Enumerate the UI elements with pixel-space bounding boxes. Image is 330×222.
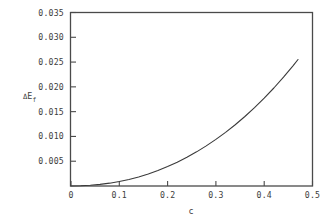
chart-canvas: 0.0050.0100.0150.0200.0250.0300.035 00.1… (0, 0, 330, 222)
y-tick-label: 0.035 (38, 8, 64, 18)
chart-figure: 0.0050.0100.0150.0200.0250.0300.035 00.1… (0, 0, 330, 222)
x-tick-label: 0 (68, 190, 73, 200)
x-tick-label: 0.2 (160, 190, 175, 200)
y-tick-label: 0.005 (38, 156, 64, 166)
y-tick-label: 0.030 (38, 32, 64, 42)
y-tick-label: 0.015 (38, 107, 64, 117)
y-axis-title-subscript: f (32, 96, 36, 103)
y-tick-label: 0.010 (38, 131, 64, 141)
x-tick-label: 0.4 (257, 190, 272, 200)
x-tick-label: 0.5 (305, 190, 320, 200)
x-tick-label: 0.1 (112, 190, 127, 200)
x-axis-title: c (188, 206, 193, 216)
y-tick-label: 0.020 (38, 82, 64, 92)
x-tick-label: 0.3 (208, 190, 223, 200)
x-axis-title-text: c (188, 206, 193, 216)
y-tick-label: 0.025 (38, 57, 64, 67)
